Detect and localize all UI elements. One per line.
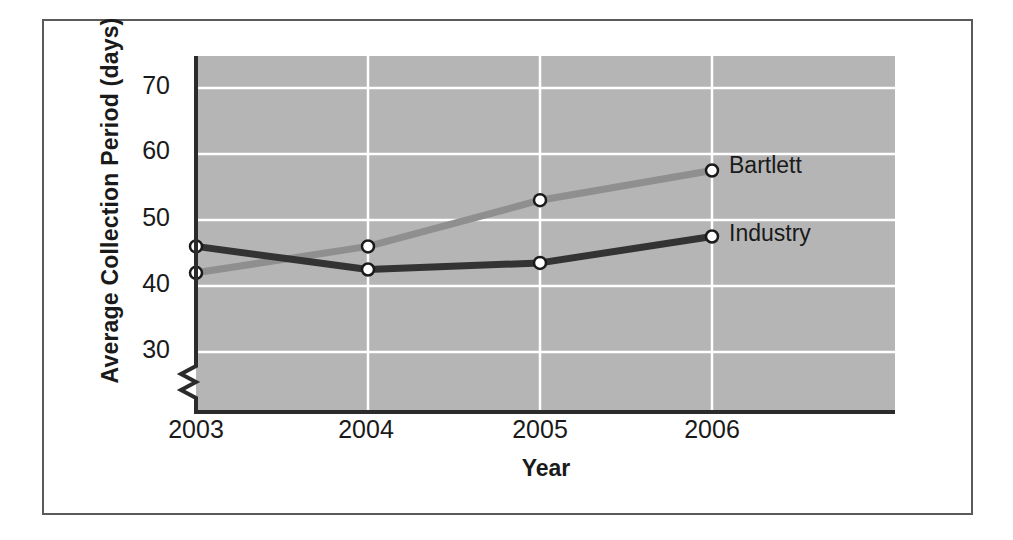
chart-figure: Average Collection Period (days) 70 60 5… <box>0 0 1013 540</box>
y-tick-label-40: 40 <box>110 269 170 298</box>
x-tick-label-2003: 2003 <box>136 415 256 444</box>
series-label-bartlett: Bartlett <box>729 152 802 179</box>
series-label-industry: Industry <box>729 220 811 247</box>
bartlett-marker-2004 <box>362 240 374 252</box>
industry-marker-2005 <box>534 257 546 269</box>
bartlett-marker-2005 <box>534 194 546 206</box>
y-tick-label-30: 30 <box>110 335 170 364</box>
y-tick-label-50: 50 <box>110 203 170 232</box>
x-tick-label-2004: 2004 <box>306 415 426 444</box>
bartlett-marker-2006 <box>706 165 718 177</box>
industry-marker-2004 <box>362 264 374 276</box>
x-tick-label-2006: 2006 <box>652 415 772 444</box>
x-tick-label-2005: 2005 <box>480 415 600 444</box>
y-tick-label-60: 60 <box>110 136 170 165</box>
y-axis-line-with-break <box>181 56 196 412</box>
industry-marker-2006 <box>706 231 718 243</box>
y-tick-label-70: 70 <box>110 71 170 100</box>
x-axis-title: Year <box>196 455 896 482</box>
